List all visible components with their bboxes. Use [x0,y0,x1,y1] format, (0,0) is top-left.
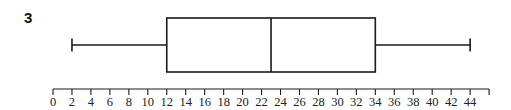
tick-label: 30 [331,95,344,109]
tick-label: 6 [107,95,113,109]
question-number: 3 [24,9,32,26]
tick-label: 4 [88,95,95,109]
tick-label: 10 [142,95,155,109]
tick-label: 16 [198,95,211,109]
tick-label: 18 [217,95,230,109]
tick-label: 14 [179,95,192,109]
x-axis: 0246810121416182022242628303234363840424… [50,89,489,109]
tick-label: 44 [464,95,477,109]
tick-label: 38 [407,95,420,109]
tick-label: 22 [255,95,268,109]
tick-label: 28 [312,95,325,109]
tick-label: 32 [350,95,363,109]
tick-label: 0 [50,95,56,109]
tick-label: 26 [293,95,306,109]
tick-label: 8 [126,95,132,109]
tick-label: 24 [274,95,287,109]
tick-label: 36 [388,95,401,109]
box-plot-figure: 3 02468101214161820222426283032343638404… [0,0,511,110]
tick-label: 42 [445,95,458,109]
tick-label: 40 [426,95,439,109]
tick-label: 20 [236,95,249,109]
box-plot-svg: 0246810121416182022242628303234363840424… [0,0,511,110]
box-and-whiskers [72,18,470,72]
tick-label: 12 [161,95,174,109]
tick-label: 34 [369,95,382,109]
tick-label: 2 [69,95,75,109]
